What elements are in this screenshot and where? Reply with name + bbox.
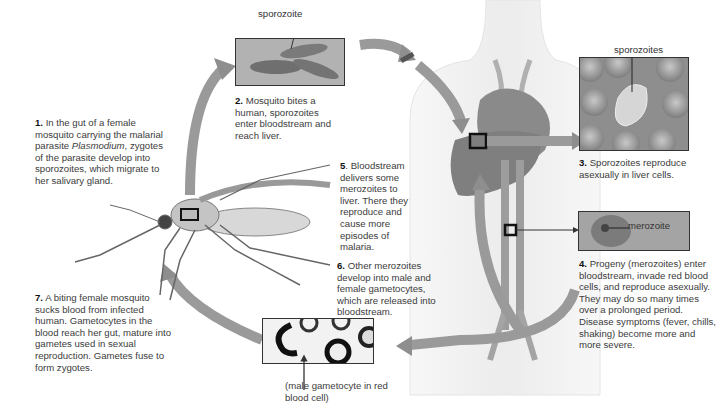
panel-gametocyte bbox=[262, 318, 374, 364]
step-5-caption: 5. Bloodstream delivers some merozoites … bbox=[340, 160, 412, 253]
label-sporozoite: sporozoite bbox=[258, 8, 302, 19]
step-4-caption: 4. Progeny (merozoites) enter bloodstrea… bbox=[579, 258, 719, 351]
step-2-caption: 2. Mosquito bites a human, sporozoites e… bbox=[235, 95, 335, 141]
step-4-number: 4. bbox=[579, 258, 587, 269]
step-7-caption: 7. A biting female mosquito sucks blood … bbox=[35, 292, 175, 373]
step-1-caption: 1. In the gut of a female mosquito carry… bbox=[35, 117, 170, 187]
step-6-caption: 6. Other merozoites develop into male an… bbox=[337, 260, 449, 318]
label-sporozoites: sporozoites bbox=[614, 44, 663, 55]
panel-liver-cells bbox=[579, 57, 689, 151]
step-2-text: Mosquito bites a human, sporozoites ente… bbox=[235, 95, 331, 141]
step-6-number: 6. bbox=[337, 260, 345, 271]
step-3-text: Sporozoites reproduce asexually in liver… bbox=[579, 157, 686, 180]
step-7-text: A biting female mosquito sucks blood fro… bbox=[35, 292, 171, 373]
label-gametocyte: (male gametocyte in red blood cell) bbox=[285, 380, 405, 403]
gut-detail-marker bbox=[181, 209, 198, 220]
step-1-italic: Plasmodium bbox=[72, 140, 125, 151]
panel-merozoite bbox=[578, 211, 690, 251]
step-2-number: 2. bbox=[235, 95, 243, 106]
step-7-number: 7. bbox=[35, 292, 43, 303]
panel-sporozoites bbox=[235, 38, 345, 86]
step-4-text: Progeny (merozoites) enter bloodstream, … bbox=[579, 258, 716, 350]
label-merozoite: merozoite bbox=[628, 220, 670, 231]
step-5-text: . Bloodstream delivers some merozoites t… bbox=[340, 160, 408, 252]
step-3-number: 3. bbox=[579, 157, 587, 168]
step-3-caption: 3. Sporozoites reproduce asexually in li… bbox=[579, 157, 719, 180]
step-6-text: Other merozoites develop into male and f… bbox=[337, 260, 436, 317]
step-1-number: 1. bbox=[35, 117, 43, 128]
